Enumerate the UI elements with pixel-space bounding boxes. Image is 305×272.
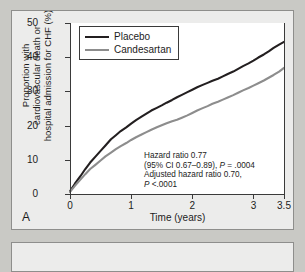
x-tick-label-3: 3 <box>239 201 267 211</box>
x-tick-1 <box>131 194 132 199</box>
y-tick-40 <box>65 57 70 58</box>
annotation-line-4: P <.0001 <box>144 180 255 190</box>
panel-letter: A <box>22 210 30 224</box>
annotation-line-3: Adjusted hazard ratio 0.70, <box>144 170 255 180</box>
annotation-line-2: (95% CI 0.67–0.89), P = .0004 <box>144 161 255 171</box>
chart-panel-b <box>11 242 294 272</box>
legend-item-placebo: Placebo <box>85 30 171 43</box>
statistics-annotation: Hazard ratio 0.77 (95% CI 0.67–0.89), P … <box>144 151 255 189</box>
x-tick-3.5 <box>284 194 285 199</box>
x-tick-label-3.5: 3.5 <box>270 201 294 211</box>
legend-label-candesartan: Candesartan <box>114 45 171 55</box>
legend-swatch-candesartan <box>85 49 109 51</box>
y-axis-title: Proportion with cardiovascular death or … <box>20 10 53 162</box>
y-axis-line <box>70 23 71 195</box>
annotation-line-2-text: (95% CI 0.67–0.89), <box>144 161 220 170</box>
y-axis-title-line-3: hospital admission for CHF (%) <box>42 10 53 162</box>
y-tick-50 <box>65 23 70 24</box>
annotation-line-2-pval: = .0004 <box>225 161 255 170</box>
y-tick-30 <box>65 91 70 92</box>
plot-right-border <box>284 23 285 195</box>
legend-swatch-placebo <box>85 36 109 38</box>
y-tick-10 <box>65 160 70 161</box>
y-tick-20 <box>65 126 70 127</box>
annotation-line-4-pval: <.0001 <box>149 180 177 189</box>
annotation-line-1: Hazard ratio 0.77 <box>144 151 255 161</box>
legend-item-candesartan: Candesartan <box>85 43 171 56</box>
x-tick-label-2: 2 <box>178 201 206 211</box>
legend-label-placebo: Placebo <box>114 32 150 42</box>
y-axis-title-line-1: Proportion with <box>20 10 31 162</box>
x-tick-3 <box>253 194 254 199</box>
chart-panel-a: 01020304050 01233.5 Proportion with card… <box>11 10 294 230</box>
y-axis-title-line-2: cardiovascular death or <box>31 10 42 162</box>
x-tick-2 <box>192 194 193 199</box>
x-tick-0 <box>70 194 71 199</box>
y-tick-label-0: 0 <box>32 189 38 199</box>
x-axis-title: Time (years) <box>70 212 285 223</box>
x-tick-label-0: 0 <box>56 201 84 211</box>
chart-legend: Placebo Candesartan <box>79 26 179 60</box>
x-tick-label-1: 1 <box>117 201 145 211</box>
